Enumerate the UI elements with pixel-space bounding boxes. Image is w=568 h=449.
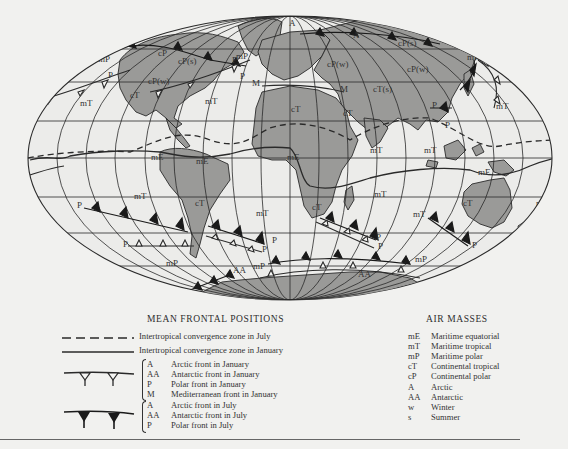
map-label: mP xyxy=(166,258,178,268)
map-label: cT xyxy=(195,198,205,208)
map-label: AA xyxy=(233,265,246,275)
map-label: P xyxy=(123,239,128,249)
map-label: mT xyxy=(256,208,269,218)
map-label: cT xyxy=(463,198,473,208)
map-label: mE xyxy=(151,152,164,162)
world-map: mPPmTcPcP(s)cP(w)cTmTmPPPAAcP(s)mPcP(w)c… xyxy=(0,0,568,310)
map-label: P xyxy=(445,120,450,130)
map-label: mT xyxy=(134,191,147,201)
map-label: cP(w) xyxy=(327,59,349,69)
map-label: cP(s) xyxy=(398,38,417,48)
map-label: cT xyxy=(130,90,140,100)
map-label: cT xyxy=(343,108,353,118)
map-label: cP(s) xyxy=(178,56,197,66)
map-label: mT xyxy=(205,96,218,106)
legend-jan-mediterranean: MMediterranean front in January xyxy=(147,389,278,400)
legend-jan-polar: PPolar front in January xyxy=(147,379,246,390)
legend-jul-arctic: AArctic front in July xyxy=(147,400,237,411)
map-label: A xyxy=(289,18,296,28)
map-label: P xyxy=(378,241,383,251)
january-brace xyxy=(142,359,146,401)
map-label: M xyxy=(252,78,260,88)
map-label: M xyxy=(340,84,348,94)
map-label: A xyxy=(353,30,360,40)
map-label: mT xyxy=(80,98,93,108)
map-label: mP xyxy=(236,51,248,61)
map-label: P xyxy=(232,55,237,65)
map-label: mP xyxy=(415,254,427,264)
map-label: P xyxy=(108,70,113,80)
bottom-divider xyxy=(0,439,520,440)
frontal-positions-title: MEAN FRONTAL POSITIONS xyxy=(147,314,284,324)
legend-jul-antarctic: AAAntarctic front in July xyxy=(147,410,247,421)
legend-itcz-january: Intertropical convergence zone in Januar… xyxy=(139,345,283,356)
legend-jan-arctic: AArctic front in January xyxy=(147,359,249,370)
map-label: P xyxy=(472,240,477,250)
air-mass-item: wWinter xyxy=(408,402,455,413)
solid-line-symbol xyxy=(62,347,134,357)
air-mass-item: AAAntarctic xyxy=(408,392,463,403)
july-front-symbol xyxy=(62,408,136,430)
legend-jul-polar: PPolar front in July xyxy=(147,420,233,431)
map-label: P xyxy=(240,71,245,81)
map-label: cT(s) xyxy=(373,84,392,94)
map-label: mP xyxy=(467,52,479,62)
map-label: P xyxy=(262,244,267,254)
map-label: mE xyxy=(478,167,491,177)
air-mass-item: mPMaritime polar xyxy=(408,351,483,362)
map-label: mT xyxy=(370,145,383,155)
map-label: mT xyxy=(424,145,437,155)
map-label: cT xyxy=(291,104,301,114)
air-mass-item: mTMaritime tropical xyxy=(408,341,491,352)
map-canvas: mPPmTcPcP(s)cP(w)cTmTmPPPAAcP(s)mPcP(w)c… xyxy=(0,0,568,310)
dashed-line-symbol xyxy=(62,333,134,343)
january-front-symbol xyxy=(62,368,136,388)
air-mass-item: mEMaritime equatorial xyxy=(408,331,500,342)
air-masses-title: AIR MASSES xyxy=(426,314,488,324)
map-label: P xyxy=(432,100,437,110)
legend: MEAN FRONTAL POSITIONS Intertropical con… xyxy=(0,312,568,449)
map-label: cP(w) xyxy=(407,64,429,74)
map-label: P xyxy=(272,235,277,245)
map-label: mE xyxy=(196,156,209,166)
map-label: mP xyxy=(253,261,265,271)
map-label: cP(w) xyxy=(148,76,170,86)
map-label: mT xyxy=(496,101,509,111)
map-label: mT xyxy=(374,189,387,199)
map-label: cT xyxy=(312,202,322,212)
air-mass-item: sSummer xyxy=(408,412,460,423)
map-label: cP xyxy=(158,48,167,58)
july-brace xyxy=(142,401,146,433)
map-label: AA xyxy=(358,269,371,279)
air-mass-item: cPContinental polar xyxy=(408,371,491,382)
air-mass-item: AArctic xyxy=(408,382,452,393)
map-label: mE xyxy=(287,152,300,162)
legend-jan-antarctic: AAAntarctic front in January xyxy=(147,369,260,380)
map-label: mT xyxy=(413,209,426,219)
legend-itcz-july: Intertropical convergence zone in July xyxy=(139,331,271,342)
map-label: P xyxy=(77,200,82,210)
air-mass-item: cTContinental tropical xyxy=(408,361,500,372)
map-label: mT xyxy=(536,198,549,208)
